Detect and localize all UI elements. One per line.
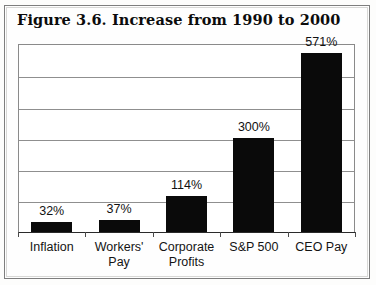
bar-group-sp500: 300%: [220, 44, 287, 232]
category-label-line: S&P 500: [220, 240, 287, 255]
axis-tick: [18, 232, 19, 237]
bar-group-inflation: 32%: [18, 44, 85, 232]
page-title: Figure 3.6. Increase from 1990 to 2000: [17, 11, 347, 28]
category-label-sp500: S&P 500: [220, 240, 287, 270]
category-label-line: Corporate: [153, 240, 220, 255]
bar-rect: [233, 138, 274, 232]
axis-tick: [153, 232, 154, 237]
category-label-corporate-profits: Corporate Profits: [153, 240, 220, 270]
bar-group-workers-pay: 37%: [85, 44, 152, 232]
bar-rect: [166, 196, 207, 232]
category-label-line: Workers': [85, 240, 152, 255]
bar-value-label: 571%: [288, 35, 355, 49]
bar-group-ceo-pay: 571%: [288, 44, 355, 232]
bar-value-label: 114%: [153, 178, 220, 192]
bar-group-corporate-profits: 114%: [153, 44, 220, 232]
category-label-workers-pay: Workers' Pay: [85, 240, 152, 270]
axis-tick: [85, 232, 86, 237]
bars-layer: 32% 37% 114% 300% 571%: [18, 44, 355, 232]
category-label-line: Pay: [85, 255, 152, 270]
figure-screenshot: Figure 3.6. Increase from 1990 to 2000 3…: [0, 0, 376, 285]
bar-value-label: 32%: [18, 204, 85, 218]
category-label-inflation: Inflation: [18, 240, 85, 270]
bar-value-label: 37%: [85, 202, 152, 216]
axis-tick: [220, 232, 221, 237]
category-label-line: Inflation: [18, 240, 85, 255]
axis-tick: [288, 232, 289, 237]
bar-value-label: 300%: [220, 120, 287, 134]
axis-tick: [355, 232, 356, 237]
bar-rect: [301, 53, 342, 232]
category-axis-labels: Inflation Workers' Pay Corporate Profits…: [18, 240, 355, 270]
bar-rect: [99, 220, 140, 232]
category-label-line: Profits: [153, 255, 220, 270]
category-label-line: CEO Pay: [288, 240, 355, 255]
bar-rect: [31, 222, 72, 232]
x-axis-line: [18, 232, 355, 233]
category-label-ceo-pay: CEO Pay: [288, 240, 355, 270]
